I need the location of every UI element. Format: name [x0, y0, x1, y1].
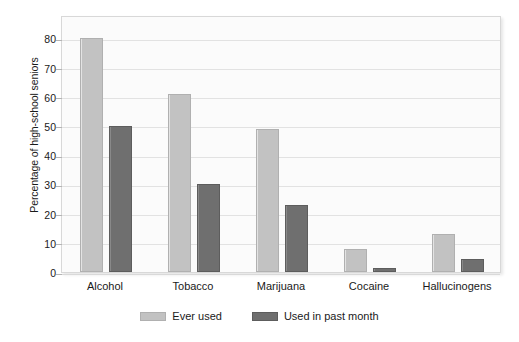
y-axis-tickmark [56, 40, 62, 41]
plot-area [61, 16, 501, 273]
bar-chart-figure: Percentage of high-school seniors 010203… [0, 0, 519, 342]
x-axis-tick-label: Marijuana [257, 280, 305, 292]
y-axis-tick-label: 0 [28, 268, 56, 279]
y-axis-tick-label: 70 [28, 63, 56, 74]
x-axis-tick-label: Alcohol [87, 280, 123, 292]
y-axis-tick-label: 10 [28, 239, 56, 250]
bar [80, 38, 103, 272]
y-axis-tick-label: 20 [28, 209, 56, 220]
legend-entry: Used in past month [252, 310, 379, 322]
y-axis-tickmark [56, 215, 62, 216]
bar-group [256, 17, 308, 272]
bar [461, 259, 484, 272]
legend-entry: Ever used [140, 310, 222, 322]
y-axis-tickmark [56, 127, 62, 128]
y-axis-tick-label: 30 [28, 180, 56, 191]
bar [168, 94, 191, 272]
bar [109, 126, 132, 272]
bar [256, 129, 279, 272]
x-axis-tick-label: Cocaine [349, 280, 389, 292]
bar [197, 184, 220, 272]
y-axis-tickmark [56, 274, 62, 275]
bar [432, 234, 455, 272]
y-axis-tick-label: 50 [28, 122, 56, 133]
y-axis-tick-label: 60 [28, 93, 56, 104]
y-axis-tick-labels: 01020304050607080 [28, 0, 56, 342]
bar-group [80, 17, 132, 272]
bar [285, 205, 308, 272]
legend-swatch [252, 312, 278, 321]
y-axis-tickmark [56, 186, 62, 187]
y-axis-tickmark [56, 98, 62, 99]
bar-group [344, 17, 396, 272]
plot-inner [62, 17, 500, 272]
bar [344, 249, 367, 272]
legend-label: Used in past month [284, 310, 379, 322]
y-axis-tickmark [56, 69, 62, 70]
gridline [62, 274, 500, 275]
x-axis-tick-label: Tobacco [173, 280, 214, 292]
legend-label: Ever used [172, 310, 222, 322]
chart-legend: Ever usedUsed in past month [0, 307, 519, 325]
y-axis-tick-label: 40 [28, 151, 56, 162]
x-axis-tick-labels: AlcoholTobaccoMarijuanaCocaineHallucinog… [61, 280, 501, 296]
bar [373, 268, 396, 272]
x-axis-tick-label: Hallucinogens [422, 280, 491, 292]
legend-swatch [140, 312, 166, 321]
y-axis-tickmark [56, 157, 62, 158]
y-axis-tickmark [56, 244, 62, 245]
bar-group [432, 17, 484, 272]
y-axis-tick-label: 80 [28, 34, 56, 45]
bar-group [168, 17, 220, 272]
